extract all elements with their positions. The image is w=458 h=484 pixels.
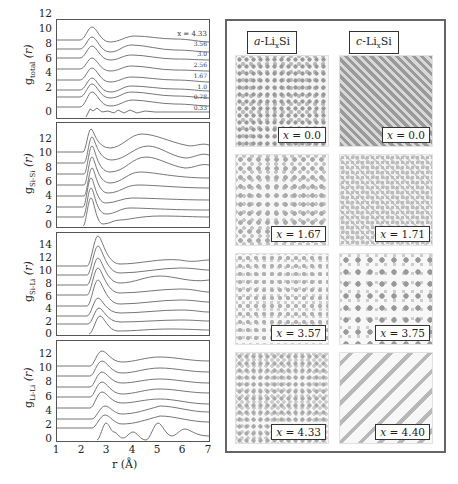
composition-badge: x = 3.57 <box>271 325 326 341</box>
structure-tile-c-2: x = 3.75 <box>339 253 433 345</box>
xtick: 4 <box>126 443 138 455</box>
composition-badge: x = 3.75 <box>375 325 430 341</box>
structure-panel: a-LixSi c-LixSi x = 0.0 x = 1.67 x = 3.5… <box>225 19 446 453</box>
composition-badge: x = 4.33 <box>271 424 326 440</box>
column-title-amorphous: a-LixSi <box>247 31 297 54</box>
curve-label: 3.0 <box>167 50 207 57</box>
composition-badge: x = 1.67 <box>271 226 326 242</box>
composition-badge: x = 1.71 <box>375 226 430 242</box>
column-title-crystalline: c-LixSi <box>349 31 399 54</box>
structure-tile-a-2: x = 3.57 <box>235 253 329 345</box>
curve-label: 0.78 <box>167 93 207 100</box>
curve-label: 0.33 <box>167 104 207 111</box>
curve-label: 1.67 <box>167 72 207 79</box>
structure-tile-c-1: x = 1.71 <box>339 154 433 246</box>
structure-tile-a-3: x = 4.33 <box>235 352 329 444</box>
xtick: 7 <box>202 443 214 455</box>
xtick: 5 <box>151 443 163 455</box>
xtick: 6 <box>176 443 188 455</box>
curve-label: 2.56 <box>167 61 207 68</box>
curve-label: 3.56 <box>167 40 207 47</box>
curve-label: 1.0 <box>167 83 207 90</box>
x-axis-label: r (Å) <box>112 458 137 471</box>
curve-label: x = 4.33 <box>167 30 207 38</box>
structure-tile-a-0: x = 0.0 <box>235 55 329 147</box>
xtick: 3 <box>100 443 112 455</box>
composition-badge: x = 4.40 <box>375 424 430 440</box>
composition-badge: x = 0.0 <box>382 127 430 143</box>
composition-badge: x = 0.0 <box>278 127 326 143</box>
xtick: 2 <box>75 443 87 455</box>
structure-tile-a-1: x = 1.67 <box>235 154 329 246</box>
structure-tile-c-3: x = 4.40 <box>339 352 433 444</box>
xtick: 1 <box>50 443 62 455</box>
structure-tile-c-0: x = 0.0 <box>339 55 433 147</box>
